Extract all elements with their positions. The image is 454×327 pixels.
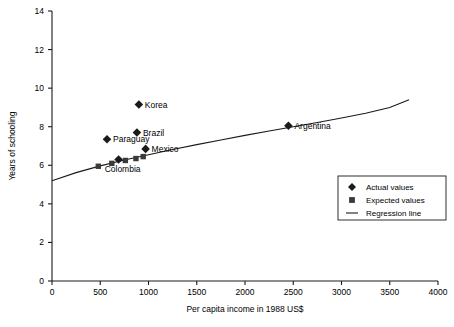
point-label-argentina: Argentina	[294, 121, 331, 131]
legend-square-icon	[349, 197, 355, 203]
legend-label-actual-values: Actual values	[366, 183, 414, 192]
point-label-mexico: Mexico	[152, 144, 179, 154]
x-tick-label: 1500	[187, 287, 206, 297]
y-tick-label: 14	[35, 6, 45, 16]
actual-value-marker	[141, 145, 150, 154]
x-tick-label: 3000	[332, 287, 351, 297]
actual-value-marker	[103, 135, 112, 144]
point-label-brazil: Brazil	[143, 128, 164, 138]
y-tick-label: 6	[39, 160, 44, 170]
y-tick-label: 10	[35, 83, 45, 93]
actual-value-marker	[284, 121, 293, 130]
y-axis-title: Years of schooling	[7, 111, 17, 180]
x-tick-label: 3500	[380, 287, 399, 297]
y-tick-label: 0	[39, 276, 44, 286]
x-tick-label: 2000	[236, 287, 255, 297]
expected-value-marker	[96, 164, 101, 169]
y-tick-label: 2	[39, 237, 44, 247]
scatter-plot: 02468101214 0500100015002000250030003500…	[0, 0, 454, 327]
x-axis: 05001000150020002500300035004000	[50, 281, 448, 297]
y-axis: 02468101214	[35, 6, 52, 286]
x-tick-label: 500	[93, 287, 107, 297]
legend-label-regression-line: Regression line	[366, 209, 422, 218]
point-label-korea: Korea	[145, 100, 168, 110]
expected-value-marker	[133, 156, 138, 161]
x-axis-title: Per capita income in 1988 US$	[186, 304, 303, 314]
legend-label-expected-values: Expected values	[366, 196, 425, 205]
chart-legend: Actual valuesExpected valuesRegression l…	[338, 176, 446, 220]
expected-value-marker	[123, 158, 128, 163]
y-tick-label: 4	[39, 199, 44, 209]
actual-value-marker	[135, 100, 144, 109]
x-tick-label: 4000	[429, 287, 448, 297]
point-labels: ParaguayColombiaBrazilKoreaMexicoArgenti…	[105, 100, 331, 174]
x-tick-label: 1000	[139, 287, 158, 297]
x-tick-label: 2500	[284, 287, 303, 297]
expected-value-marker	[140, 154, 145, 159]
point-label-colombia: Colombia	[105, 164, 141, 174]
y-tick-label: 12	[35, 45, 45, 55]
y-tick-label: 8	[39, 122, 44, 132]
chart-figure: 02468101214 0500100015002000250030003500…	[0, 0, 454, 327]
x-tick-label: 0	[50, 287, 55, 297]
